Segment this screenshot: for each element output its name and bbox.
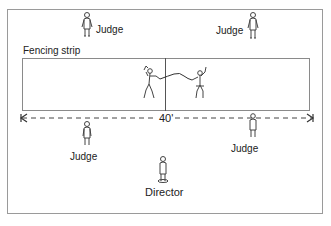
judge-figure-top-right — [246, 12, 260, 40]
judge-figure-bottom-left — [80, 121, 94, 147]
director-figure — [156, 156, 170, 184]
judge-label-bottom-right: Judge — [231, 143, 258, 154]
judge-label-top-left: Judge — [96, 24, 123, 35]
director-label: Director — [145, 187, 184, 198]
judge-label-top-right: Judge — [216, 25, 243, 36]
dimension-label: 40' — [157, 112, 175, 124]
judge-label-bottom-left: Judge — [70, 151, 97, 162]
judge-figure-bottom-right — [247, 113, 259, 139]
judge-figure-top-left — [80, 12, 94, 38]
fencer-left-figure — [140, 64, 220, 104]
strip-label: Fencing strip — [23, 45, 80, 56]
